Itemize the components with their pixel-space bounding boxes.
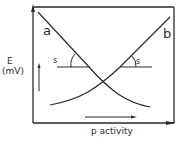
p-activity-arrow-icon <box>131 116 137 119</box>
slope-label-a: s <box>53 57 57 65</box>
y-axis-arrowhead-icon <box>31 4 35 12</box>
curve-a-label: a <box>43 24 51 37</box>
y-axis-label-unit: (mV) <box>2 67 24 76</box>
slope-label-b: s <box>136 58 140 66</box>
curve-b-label: b <box>163 27 171 40</box>
plot-frame <box>33 7 174 123</box>
diagram-canvas <box>0 0 181 144</box>
slope-angle-arc-a-icon <box>71 54 75 67</box>
e-increase-arrow-icon <box>38 63 41 68</box>
x-axis-label: p activity <box>91 127 133 136</box>
y-axis-label-e: E <box>7 57 13 66</box>
curve-b <box>50 17 170 105</box>
